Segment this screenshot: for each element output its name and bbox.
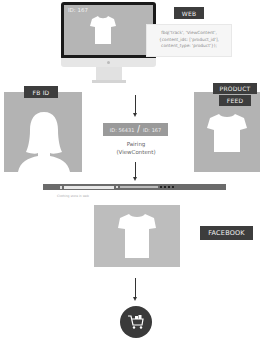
fb-logo-icon [60, 186, 62, 189]
product-id: ID: 167 [143, 127, 161, 133]
purchase-circle [120, 306, 152, 338]
arrow-head [133, 177, 137, 181]
arrow-down-icon [135, 95, 136, 113]
fb-notifications-icon [168, 186, 170, 188]
fb-settings-icon [172, 186, 174, 188]
fb-id-panel [4, 92, 82, 172]
fb-id-label: FB ID [24, 86, 58, 98]
screen-product-id: ID: 167 [68, 7, 88, 13]
tshirt-icon [207, 114, 247, 152]
fb-friends-icon [160, 186, 162, 188]
fb-avatar-icon [116, 186, 118, 188]
pairing-event: (ViewContent) [100, 148, 172, 156]
apple-logo-icon [107, 61, 110, 64]
fb-logo-area [46, 186, 58, 189]
person-silhouette-icon [18, 110, 70, 172]
facebook-top-bar [43, 184, 226, 190]
monitor-base [92, 80, 126, 83]
tshirt-icon [90, 16, 116, 44]
arrow-down-icon [135, 162, 136, 177]
tshirt-icon [118, 214, 156, 258]
pixel-code-snippet: fbq('track', 'ViewContent', {content_ids… [146, 24, 232, 57]
arrow-head [133, 297, 137, 301]
web-label: WEB [174, 7, 204, 19]
monitor-chin [61, 58, 156, 67]
fb-user-id: ID: 56431 [110, 127, 135, 133]
facebook-ad-image [94, 205, 180, 267]
fb-nav-links [120, 186, 158, 188]
shopping-cart-icon [127, 314, 145, 330]
product-label: PRODUCT [213, 83, 257, 94]
id-pairing-box: ID: 56431 / ID: 167 [103, 123, 168, 136]
monitor-screen: ID: 167 [64, 5, 153, 55]
fb-messages-icon [164, 186, 166, 188]
arrow-head [133, 113, 137, 117]
arrow-down-icon [135, 278, 136, 297]
post-caption: Clothing store in web [57, 194, 89, 198]
facebook-label: FACEBOOK [200, 226, 253, 240]
feed-label: FEED [219, 95, 251, 106]
pairing-title: Pairing [100, 140, 172, 148]
pairing-text: Pairing (ViewContent) [100, 140, 172, 156]
code-line: content_type: 'product'}); [147, 43, 231, 50]
id-separator: / [137, 125, 140, 134]
fb-search-input [64, 186, 114, 189]
